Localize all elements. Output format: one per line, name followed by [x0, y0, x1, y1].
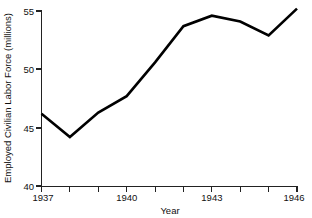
x-tick-label-1940: 1940	[116, 192, 137, 203]
y-tick-label-55: 55	[23, 6, 34, 17]
chart-canvas: 55 50 45 40 1937 1940 1943 1946 Year Emp…	[0, 0, 312, 218]
x-axis-title: Year	[160, 205, 179, 216]
y-axis-title: Employed Civilian Labor Force (millions)	[2, 13, 13, 183]
x-tick-label-1946: 1946	[283, 192, 304, 203]
x-tick-label-1943: 1943	[201, 192, 222, 203]
y-tick-label-50: 50	[23, 64, 34, 75]
y-tick-label-45: 45	[23, 123, 34, 134]
y-tick-label-40: 40	[23, 181, 34, 192]
line-chart: 55 50 45 40 1937 1940 1943 1946 Year Emp…	[0, 0, 312, 218]
x-tick-label-1937: 1937	[32, 192, 53, 203]
data-series-line	[42, 9, 298, 137]
